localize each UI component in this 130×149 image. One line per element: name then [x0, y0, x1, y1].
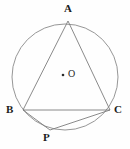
vertex-label-b: B [6, 104, 13, 115]
center-label-o: O [68, 69, 75, 79]
segment-ab [23, 21, 68, 110]
center-point-dot [62, 74, 65, 77]
segment-pc [50, 110, 110, 130]
vertex-label-p: P [43, 132, 50, 143]
vertex-label-a: A [64, 3, 72, 14]
geometry-figure: A B C P O [0, 0, 130, 149]
vertex-label-c: C [114, 104, 122, 115]
segment-ac [68, 21, 110, 110]
segment-bp [23, 110, 50, 130]
geometry-canvas [0, 0, 130, 149]
